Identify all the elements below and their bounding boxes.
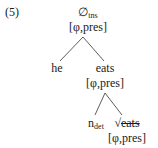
branch-root-eats — [83, 37, 104, 61]
tree-branches — [0, 0, 158, 148]
branch-root-he — [60, 37, 83, 61]
branch-eats-ndet — [95, 93, 105, 115]
branch-eats-root — [105, 93, 122, 115]
